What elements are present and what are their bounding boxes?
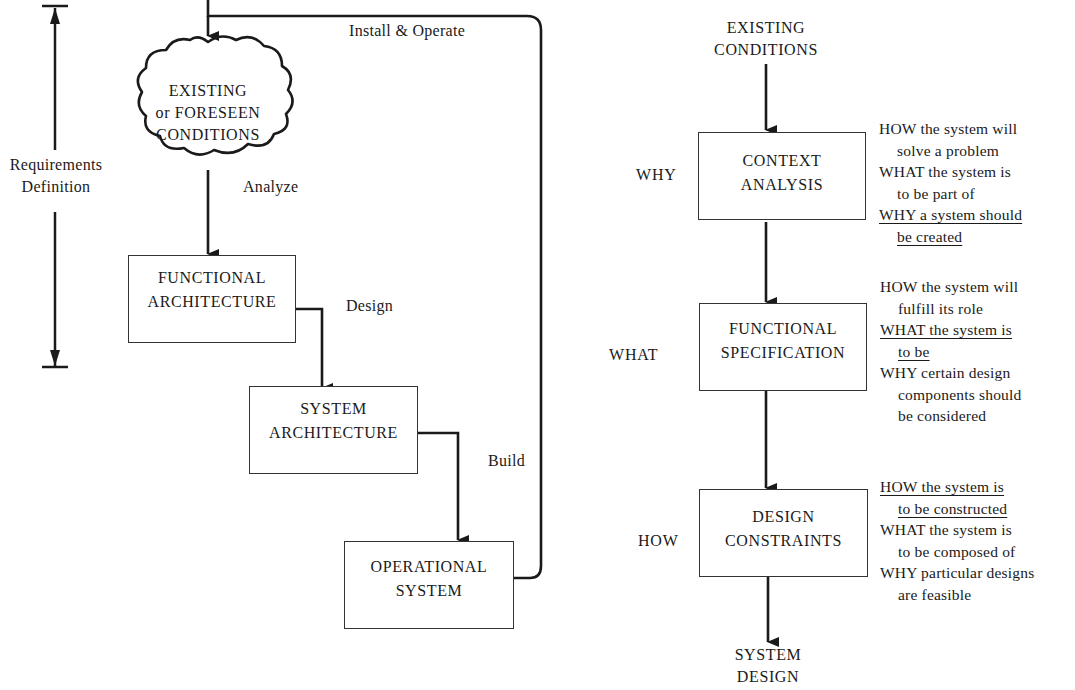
design-arrow	[296, 309, 322, 388]
box-line: FUNCTIONAL	[721, 317, 845, 341]
note-line: components should	[880, 384, 1022, 406]
note-line: WHY certain design	[880, 362, 1022, 384]
system-design-end: SYSTEM DESIGN	[718, 644, 818, 688]
note-line: WHY particular designs	[880, 562, 1034, 584]
start-line: CONDITIONS	[706, 39, 826, 61]
box-line: OPERATIONAL	[371, 555, 488, 579]
design-constraints-notes: HOW the system is to be constructed WHAT…	[880, 476, 1034, 605]
functional-specification-box: FUNCTIONAL SPECIFICATION	[699, 303, 867, 391]
note-line-emphasized: to be constructed	[880, 498, 1034, 520]
requirements-definition-label: Requirements Definition	[0, 154, 112, 198]
design-constraints-box: DESIGN CONSTRAINTS	[699, 489, 868, 577]
cloud-line: EXISTING	[140, 80, 276, 102]
note-line-emphasized: to be	[880, 341, 1022, 363]
bracket-label-line: Definition	[0, 176, 112, 198]
note-line: HOW the system will	[879, 118, 1022, 140]
note-line: WHAT the system is	[880, 519, 1034, 541]
install-operate-label: Install & Operate	[349, 20, 465, 42]
box-line: SPECIFICATION	[721, 341, 845, 365]
functional-architecture-box: FUNCTIONAL ARCHITECTURE	[128, 255, 296, 343]
cloud-text: EXISTING or FORESEEN CONDITIONS	[140, 80, 276, 146]
start-line: EXISTING	[706, 17, 826, 39]
functional-specification-notes: HOW the system will fulfill its role WHA…	[880, 276, 1022, 427]
context-analysis-box: CONTEXT ANALYSIS	[698, 132, 866, 220]
box-line: ANALYSIS	[741, 173, 823, 197]
note-line: be considered	[880, 405, 1022, 427]
end-line: SYSTEM	[718, 644, 818, 666]
note-line: to be part of	[879, 183, 1022, 205]
cloud-line: CONDITIONS	[140, 124, 276, 146]
box-line: CONTEXT	[741, 149, 823, 173]
box-line: SYSTEM	[371, 579, 488, 603]
box-line: FUNCTIONAL	[148, 266, 277, 290]
note-line: WHAT the system is	[879, 161, 1022, 183]
box-line: CONSTRAINTS	[725, 529, 842, 553]
end-line: DESIGN	[718, 666, 818, 688]
existing-conditions-start: EXISTING CONDITIONS	[706, 17, 826, 61]
operational-system-box: OPERATIONAL SYSTEM	[344, 541, 514, 629]
box-line: DESIGN	[725, 505, 842, 529]
why-side-label: WHY	[636, 164, 677, 186]
box-line: ARCHITECTURE	[269, 421, 398, 445]
note-text: to be	[898, 343, 930, 360]
analyze-label: Analyze	[243, 176, 298, 198]
note-line: fulfill its role	[880, 298, 1022, 320]
how-side-label: HOW	[638, 530, 679, 552]
note-line-emphasized: HOW the system is	[880, 476, 1034, 498]
note-line-emphasized: WHAT the system is	[880, 319, 1022, 341]
design-label: Design	[346, 295, 393, 317]
context-analysis-notes: HOW the system will solve a problem WHAT…	[879, 118, 1022, 247]
box-line: SYSTEM	[269, 397, 398, 421]
note-text: be created	[897, 228, 962, 245]
bracket-label-line: Requirements	[0, 154, 112, 176]
build-label: Build	[488, 450, 525, 472]
note-line-emphasized: WHY a system should	[879, 204, 1022, 226]
note-line: are feasible	[880, 584, 1034, 606]
system-architecture-box: SYSTEM ARCHITECTURE	[249, 386, 418, 474]
note-line: to be composed of	[880, 541, 1034, 563]
note-line: solve a problem	[879, 140, 1022, 162]
what-side-label: WHAT	[609, 344, 658, 366]
note-text: to be constructed	[898, 500, 1007, 517]
build-arrow	[418, 433, 458, 540]
box-line: ARCHITECTURE	[148, 290, 277, 314]
note-line: HOW the system will	[880, 276, 1022, 298]
note-line-emphasized: be created	[879, 226, 1022, 248]
cloud-line: or FORESEEN	[140, 102, 276, 124]
